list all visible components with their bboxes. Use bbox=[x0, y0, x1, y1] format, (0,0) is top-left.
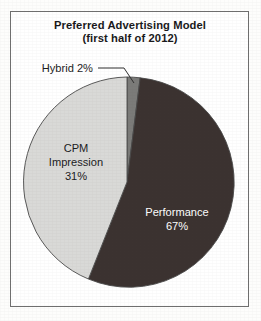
performance-label-line2: 67% bbox=[166, 220, 188, 232]
pie-chart: Hybrid 2% CPM Impression 31% Performance… bbox=[0, 0, 261, 321]
hybrid-label: Hybrid 2% bbox=[42, 62, 93, 74]
figure-canvas: Preferred Advertising Model (first half … bbox=[0, 0, 261, 321]
cpm-label-line2: Impression bbox=[49, 156, 103, 168]
performance-label-line1: Performance bbox=[145, 206, 209, 218]
cpm-label-line1: CPM bbox=[64, 142, 89, 154]
cpm-label-line3: 31% bbox=[65, 170, 87, 182]
